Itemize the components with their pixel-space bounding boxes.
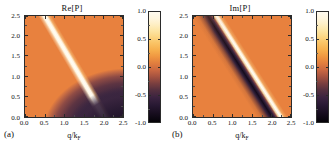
- x-tick-major: [84, 114, 85, 117]
- x-tick-major: [271, 114, 272, 117]
- colorbar-tick-minor: [316, 109, 318, 110]
- y-tick-minor: [193, 66, 195, 67]
- y-tick-major: [193, 96, 196, 97]
- panel-a-title: Re[P]: [20, 3, 124, 13]
- y-tick-major: [25, 76, 28, 77]
- x-axis-title-main: q/k: [235, 131, 245, 140]
- x-tick-major-top: [64, 16, 65, 19]
- y-tick-major: [193, 55, 196, 56]
- x-tick-major-top: [213, 16, 214, 19]
- x-tick-minor-top: [222, 16, 223, 18]
- x-tick-minor: [222, 115, 223, 117]
- y-tick-minor-right: [121, 86, 123, 87]
- y-tick-major-right: [120, 116, 123, 117]
- x-tick-minor: [113, 115, 114, 117]
- y-tick-major-right: [120, 96, 123, 97]
- y-tick-label: 1.0: [11, 73, 20, 81]
- y-tick-major: [193, 16, 196, 17]
- y-tick-minor: [193, 106, 195, 107]
- colorbar-tick-label: -1.0: [135, 119, 146, 127]
- y-tick-major-right: [120, 16, 123, 17]
- y-tick-minor: [25, 66, 27, 67]
- x-tick-minor: [242, 115, 243, 117]
- x-tick-label: 1.0: [228, 119, 237, 127]
- x-tick-minor-top: [94, 16, 95, 18]
- x-tick-minor: [262, 115, 263, 117]
- colorbar-tick-right: [326, 67, 329, 68]
- y-tick-major-right: [288, 55, 291, 56]
- y-tick-major-right: [288, 116, 291, 117]
- colorbar-tick: [316, 67, 319, 68]
- panel-a-colorbar-ticks: [148, 11, 161, 123]
- x-tick-minor-top: [262, 16, 263, 18]
- panel-b-x-axis-title: q/kF: [192, 131, 292, 140]
- panel-a: Re[P]: [0, 0, 167, 153]
- y-tick-major-right: [120, 76, 123, 77]
- colorbar-tick-right: [326, 11, 329, 12]
- colorbar-tick: [148, 95, 151, 96]
- y-tick-label: 2.0: [11, 32, 20, 40]
- x-tick-label: 2.0: [100, 119, 109, 127]
- y-tick-label: 0.0: [11, 114, 20, 122]
- y-tick-minor: [193, 86, 195, 87]
- x-tick-label: 2.5: [287, 119, 296, 127]
- colorbar-tick: [148, 39, 151, 40]
- x-tick-major-top: [232, 16, 233, 19]
- y-tick-major-right: [120, 55, 123, 56]
- colorbar-tick-right: [158, 122, 161, 123]
- x-tick-label: 0.5: [40, 119, 49, 127]
- x-tick-major-top: [271, 16, 272, 19]
- colorbar-tick-minor: [316, 25, 318, 26]
- x-tick-major-top: [45, 16, 46, 19]
- x-tick-label: 1.0: [60, 119, 69, 127]
- colorbar-tick-right: [158, 39, 161, 40]
- y-tick-major: [193, 76, 196, 77]
- colorbar-tick-right: [158, 67, 161, 68]
- re-lobe-overlay: [25, 16, 123, 117]
- colorbar-tick-minor: [148, 53, 150, 54]
- y-tick-minor-right: [121, 25, 123, 26]
- panel-a-x-axis-title: q/kF: [24, 131, 124, 140]
- colorbar-tick-minor: [316, 53, 318, 54]
- x-tick-minor: [94, 115, 95, 117]
- colorbar-tick-right: [158, 95, 161, 96]
- y-tick-label: 1.0: [179, 73, 188, 81]
- panel-b-colorbar-labels: 1.0 0.5 0.0 -0.5 -1.0: [299, 11, 314, 123]
- x-axis-title-subscript: F: [78, 135, 81, 141]
- panel-b: Im[P]: [168, 0, 335, 153]
- x-tick-label: 0.0: [188, 119, 197, 127]
- y-tick-label: 1.5: [179, 52, 188, 60]
- colorbar-tick-label: 0.5: [137, 35, 146, 43]
- x-tick-label: 0.0: [20, 119, 29, 127]
- panel-b-y-tick-labels: 0.0 0.5 1.0 1.5 2.0 2.5: [168, 15, 190, 118]
- panel-a-label: (a): [4, 129, 14, 139]
- x-tick-major-top: [103, 16, 104, 19]
- x-tick-minor-top: [242, 16, 243, 18]
- y-tick-label: 0.5: [179, 93, 188, 101]
- x-tick-minor: [54, 115, 55, 117]
- x-tick-major: [64, 114, 65, 117]
- x-tick-minor: [35, 115, 36, 117]
- x-tick-major-top: [252, 16, 253, 19]
- y-tick-minor-right: [289, 25, 291, 26]
- x-tick-minor: [74, 115, 75, 117]
- y-tick-minor-right: [289, 45, 291, 46]
- y-tick-major-right: [288, 35, 291, 36]
- y-tick-minor-right: [289, 66, 291, 67]
- x-tick-minor: [281, 115, 282, 117]
- panel-b-title: Im[P]: [188, 3, 292, 13]
- panel-a-colorbar-group: 1.0 0.5 0.0 -0.5 -1.0: [131, 11, 165, 123]
- colorbar-tick-right: [326, 122, 329, 123]
- panel-b-colorbar-ticks: [316, 11, 329, 123]
- x-tick-major-top: [84, 16, 85, 19]
- y-tick-major-right: [288, 96, 291, 97]
- y-tick-major-right: [120, 35, 123, 36]
- x-tick-minor-top: [54, 16, 55, 18]
- y-tick-minor: [193, 45, 195, 46]
- colorbar-tick-minor: [148, 109, 150, 110]
- y-tick-label: 0.5: [11, 93, 20, 101]
- panel-a-y-tick-labels: 0.0 0.5 1.0 1.5 2.0 2.5: [0, 15, 22, 118]
- x-axis-title-main: q/k: [67, 131, 77, 140]
- y-tick-minor-right: [121, 45, 123, 46]
- y-tick-label: 2.5: [11, 12, 20, 20]
